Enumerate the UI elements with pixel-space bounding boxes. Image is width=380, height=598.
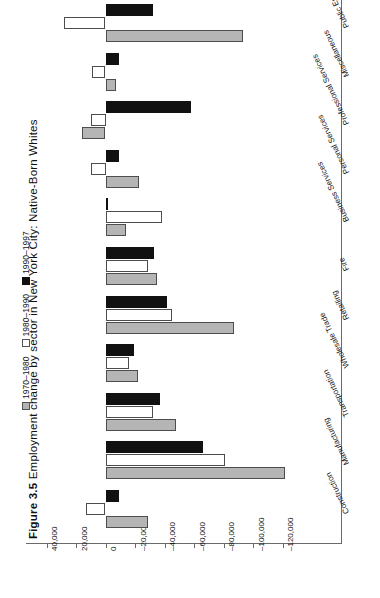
axis-tick <box>165 544 166 548</box>
bar-group <box>0 247 380 285</box>
bar-1970-1980[interactable] <box>106 30 243 42</box>
axis-tick <box>194 544 195 548</box>
bar-1990-1997[interactable] <box>106 441 203 453</box>
axis-tick-label: 20,000 <box>80 527 89 551</box>
bar-1970-1980[interactable] <box>106 79 116 91</box>
axis-tick <box>47 544 48 548</box>
bar-1970-1980[interactable] <box>106 467 286 479</box>
axis-tick <box>76 544 77 548</box>
bar-1990-1997[interactable] <box>106 344 134 356</box>
bar-1970-1980[interactable] <box>106 419 177 431</box>
bar-1990-1997[interactable] <box>106 247 155 259</box>
bar-1970-1980[interactable] <box>106 273 158 285</box>
bar-1980-1990[interactable] <box>106 454 225 466</box>
axis-tick <box>253 544 254 548</box>
bar-group <box>0 490 380 528</box>
axis-tick <box>106 544 107 548</box>
bar-1990-1997[interactable] <box>106 4 153 16</box>
bar-1990-1997[interactable] <box>106 150 119 162</box>
bar-1970-1980[interactable] <box>106 370 138 382</box>
bar-1980-1990[interactable] <box>106 309 172 321</box>
bar-1970-1980[interactable] <box>106 322 234 334</box>
bar-1990-1997[interactable] <box>106 198 108 210</box>
bar-1980-1990[interactable] <box>106 357 130 369</box>
bar-1990-1997[interactable] <box>106 53 119 65</box>
bar-1980-1990[interactable] <box>106 260 149 272</box>
bar-1970-1980[interactable] <box>106 176 140 188</box>
axis-tick-label: 0 <box>109 547 118 551</box>
axis-tick <box>224 544 225 548</box>
bar-1980-1990[interactable] <box>86 503 105 515</box>
bar-1970-1980[interactable] <box>106 516 149 528</box>
axis-tick <box>135 544 136 548</box>
bar-1980-1990[interactable] <box>91 163 106 175</box>
bar-1990-1997[interactable] <box>106 393 161 405</box>
axis-tick-label: 40,000 <box>50 527 59 551</box>
bar-1990-1997[interactable] <box>106 296 168 308</box>
chart-plot-area: 40,00020,0000–20,000–40,000–60,000–80,00… <box>0 0 380 598</box>
bar-1970-1980[interactable] <box>106 224 127 236</box>
bar-1990-1997[interactable] <box>106 490 119 502</box>
bar-1980-1990[interactable] <box>106 211 162 223</box>
bar-group <box>0 198 380 236</box>
bar-1980-1990[interactable] <box>64 17 105 29</box>
bar-1980-1990[interactable] <box>106 406 153 418</box>
bar-1970-1980[interactable] <box>82 127 106 139</box>
axis-tick <box>283 544 284 548</box>
bar-1990-1997[interactable] <box>106 101 192 113</box>
bar-1980-1990[interactable] <box>92 66 105 78</box>
bar-1980-1990[interactable] <box>91 114 106 126</box>
